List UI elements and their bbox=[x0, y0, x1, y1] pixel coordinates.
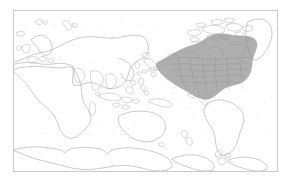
landmass-madagascar bbox=[89, 102, 95, 116]
landmass-china-korea bbox=[118, 58, 139, 81]
world-map-canvas[interactable] bbox=[14, 11, 277, 171]
landmass-antarctica bbox=[14, 147, 268, 171]
landmass-southeast-asia bbox=[99, 74, 139, 110]
landmass-philippines bbox=[139, 78, 149, 96]
landmass-svalbard bbox=[35, 19, 48, 24]
landmass-new-zealand bbox=[182, 130, 192, 146]
landmass-british-isles bbox=[16, 44, 30, 53]
landmass-africa bbox=[14, 66, 91, 138]
landmass-novaya-zemlya bbox=[63, 20, 78, 29]
world-map-frame bbox=[13, 10, 278, 172]
figure-page: Distribution range bbox=[0, 0, 291, 185]
landmass-australia bbox=[118, 111, 166, 147]
landmass-south-america bbox=[204, 100, 244, 156]
landmass-iceland bbox=[16, 31, 24, 36]
landmass-india bbox=[90, 71, 103, 97]
landmass-japan bbox=[142, 52, 157, 76]
landmass-new-guinea bbox=[149, 99, 173, 107]
landmass-europe-mediterranean bbox=[14, 56, 73, 66]
landmass-north-america-highlight[interactable] bbox=[156, 34, 257, 100]
